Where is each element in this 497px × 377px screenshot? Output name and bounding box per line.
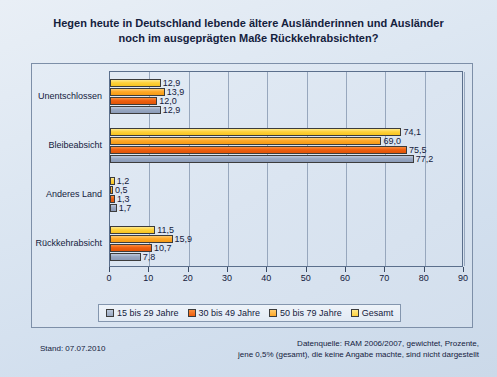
legend-swatch [188, 309, 196, 317]
title-line-1: Hegen heute in Deutschland lebende älter… [20, 16, 477, 31]
bar-row: 10,7 [110, 244, 462, 252]
data-source-note: Datenquelle: RAM 2006/2007, gewichtet, P… [209, 338, 479, 360]
bar-row: 11,5 [110, 226, 462, 234]
gridline [464, 72, 465, 266]
bar-group: 12,913,912,012,9 [110, 79, 462, 114]
bar[interactable] [110, 106, 161, 114]
bar-row: 7,8 [110, 253, 462, 261]
x-tick [227, 267, 228, 272]
legend-label: Gesamt [362, 308, 394, 318]
bar-value-label: 12,9 [163, 106, 181, 115]
x-tick-label: 30 [222, 273, 232, 283]
category-label: Anderes Land [0, 189, 102, 199]
x-tick-label: 70 [379, 273, 389, 283]
x-tick [109, 267, 110, 272]
bar-row: 13,9 [110, 88, 462, 96]
x-tick-label: 60 [340, 273, 350, 283]
bar-group: 11,515,910,77,8 [110, 226, 462, 261]
bar-value-label: 11,5 [157, 226, 174, 235]
chart-legend: 15 bis 29 Jahre30 bis 49 Jahre50 bis 79 … [98, 304, 401, 322]
legend-item[interactable]: 30 bis 49 Jahre [188, 308, 261, 318]
title-line-2: noch im ausgeprägten Maße Rückkehrabsich… [20, 31, 477, 46]
bar-row: 74,1 [110, 128, 462, 136]
bar[interactable] [110, 128, 401, 136]
x-tick-label: 90 [458, 273, 468, 283]
bar[interactable] [110, 177, 115, 185]
stand-date: Stand: 07.07.2010 [40, 344, 105, 353]
x-tick [188, 267, 189, 272]
x-axis-ticks [109, 267, 463, 272]
page-title: Hegen heute in Deutschland lebende älter… [20, 16, 477, 46]
x-tick [384, 267, 385, 272]
x-tick [306, 267, 307, 272]
bar-row: 12,9 [110, 79, 462, 87]
plot-area: 12,913,912,012,974,169,075,577,21,20,51,… [109, 71, 463, 267]
bar-value-label: 74,1 [403, 128, 421, 137]
legend-swatch [351, 309, 359, 317]
bar-row: 75,5 [110, 146, 462, 154]
bar[interactable] [110, 226, 155, 234]
x-tick-label: 20 [183, 273, 193, 283]
bar-row: 0,5 [110, 186, 462, 194]
bar[interactable] [110, 235, 173, 243]
bar-row: 1,3 [110, 195, 462, 203]
x-tick [345, 267, 346, 272]
x-tick [424, 267, 425, 272]
legend-label: 30 bis 49 Jahre [199, 308, 261, 318]
bar[interactable] [110, 195, 115, 203]
bar-value-label: 15,9 [175, 235, 193, 244]
bar[interactable] [110, 137, 381, 145]
legend-item[interactable]: 15 bis 29 Jahre [106, 308, 179, 318]
bar-value-label: 69,0 [383, 137, 401, 146]
bar-row: 12,9 [110, 106, 462, 114]
bar-value-label: 77,2 [416, 155, 434, 164]
bar[interactable] [110, 155, 414, 163]
category-label: Unentschlossen [0, 91, 102, 101]
bar-row: 12,0 [110, 97, 462, 105]
source-line-2: jene 0,5% (gesamt), die keine Angabe mac… [209, 349, 479, 360]
source-line-1: Datenquelle: RAM 2006/2007, gewichtet, P… [209, 338, 479, 349]
x-tick-label: 40 [261, 273, 271, 283]
bar-value-label: 7,8 [143, 253, 156, 262]
legend-label: 50 bis 79 Jahre [280, 308, 342, 318]
bar[interactable] [110, 97, 157, 105]
x-tick [266, 267, 267, 272]
bar-group: 74,169,075,577,2 [110, 128, 462, 163]
category-label: Bleibeabsicht [0, 140, 102, 150]
bar-value-label: 1,7 [119, 204, 132, 213]
bar[interactable] [110, 88, 165, 96]
x-tick-label: 50 [301, 273, 311, 283]
category-label: Rückkehrabsicht [0, 238, 102, 248]
bar[interactable] [110, 253, 141, 261]
bar-value-label: 10,7 [154, 244, 172, 253]
chart-frame: 12,913,912,012,974,169,075,577,21,20,51,… [31, 63, 473, 328]
x-axis-tick-labels: 0102030405060708090 [109, 273, 463, 285]
legend-swatch [106, 309, 114, 317]
x-tick-label: 0 [106, 273, 111, 283]
bar-row: 77,2 [110, 155, 462, 163]
x-tick-label: 80 [419, 273, 429, 283]
bar-row: 69,0 [110, 137, 462, 145]
bar[interactable] [110, 186, 113, 194]
legend-swatch [269, 309, 277, 317]
legend-label: 15 bis 29 Jahre [117, 308, 179, 318]
bar-group: 1,20,51,31,7 [110, 177, 462, 212]
bar[interactable] [110, 244, 152, 252]
bar-row: 1,7 [110, 204, 462, 212]
bar[interactable] [110, 79, 161, 87]
x-tick [148, 267, 149, 272]
x-tick [463, 267, 464, 272]
legend-item[interactable]: 50 bis 79 Jahre [269, 308, 342, 318]
x-tick-label: 10 [143, 273, 153, 283]
bar[interactable] [110, 204, 117, 212]
bar-row: 1,2 [110, 177, 462, 185]
legend-item[interactable]: Gesamt [351, 308, 394, 318]
bar-row: 15,9 [110, 235, 462, 243]
bar[interactable] [110, 146, 407, 154]
